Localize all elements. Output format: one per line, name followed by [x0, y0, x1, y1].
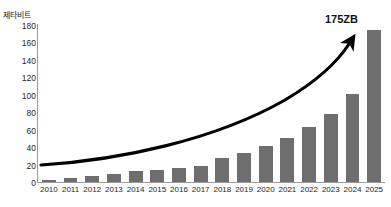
- bar-2021: [280, 138, 294, 182]
- x-tick-2013: 2013: [105, 185, 123, 194]
- bar-series: [38, 26, 385, 182]
- y-tick-20: 20: [4, 161, 36, 171]
- y-tick-160: 160: [4, 38, 36, 48]
- bar-2014: [129, 171, 143, 182]
- y-tick-120: 120: [4, 73, 36, 83]
- y-tick-40: 40: [4, 143, 36, 153]
- x-tick-2021: 2021: [279, 185, 297, 194]
- y-tick-140: 140: [4, 56, 36, 66]
- x-tick-2010: 2010: [40, 185, 58, 194]
- bar-2013: [107, 174, 121, 182]
- x-tick-2025: 2025: [365, 185, 383, 194]
- x-tick-2020: 2020: [257, 185, 275, 194]
- bar-2024: [346, 94, 360, 182]
- bar-2025: [367, 30, 381, 182]
- y-axis-tick-labels: 020406080100120140160180: [0, 26, 36, 183]
- y-tick-100: 100: [4, 91, 36, 101]
- bar-2017: [194, 166, 208, 182]
- y-tick-0: 0: [4, 178, 36, 188]
- x-tick-2018: 2018: [213, 185, 231, 194]
- x-axis-tick-labels: 2010201120122013201420152016201720182019…: [38, 185, 385, 203]
- bar-2016: [172, 168, 186, 182]
- bar-2019: [237, 153, 251, 182]
- y-tick-180: 180: [4, 21, 36, 31]
- bar-2018: [215, 158, 229, 182]
- x-tick-2024: 2024: [344, 185, 362, 194]
- bar-2012: [85, 176, 99, 182]
- y-tick-60: 60: [4, 126, 36, 136]
- x-tick-2012: 2012: [83, 185, 101, 194]
- x-tick-2017: 2017: [192, 185, 210, 194]
- x-tick-2019: 2019: [235, 185, 253, 194]
- x-tick-2011: 2011: [62, 185, 79, 194]
- bar-2015: [150, 170, 164, 182]
- x-tick-2015: 2015: [148, 185, 166, 194]
- y-tick-80: 80: [4, 108, 36, 118]
- bar-2011: [64, 178, 78, 182]
- bar-2023: [324, 114, 338, 182]
- bar-2010: [42, 180, 56, 182]
- y-axis-unit-label: 제타비트: [3, 9, 31, 20]
- annotation-175zb: 175ZB: [325, 13, 358, 25]
- x-axis-line: [37, 182, 385, 183]
- bar-2020: [259, 146, 273, 182]
- x-tick-2014: 2014: [127, 185, 145, 194]
- bar-2022: [302, 127, 316, 182]
- x-tick-2016: 2016: [170, 185, 188, 194]
- x-tick-2022: 2022: [300, 185, 318, 194]
- zettabyte-growth-chart: 제타비트 020406080100120140160180 175ZB 2010…: [0, 0, 391, 207]
- x-tick-2023: 2023: [322, 185, 340, 194]
